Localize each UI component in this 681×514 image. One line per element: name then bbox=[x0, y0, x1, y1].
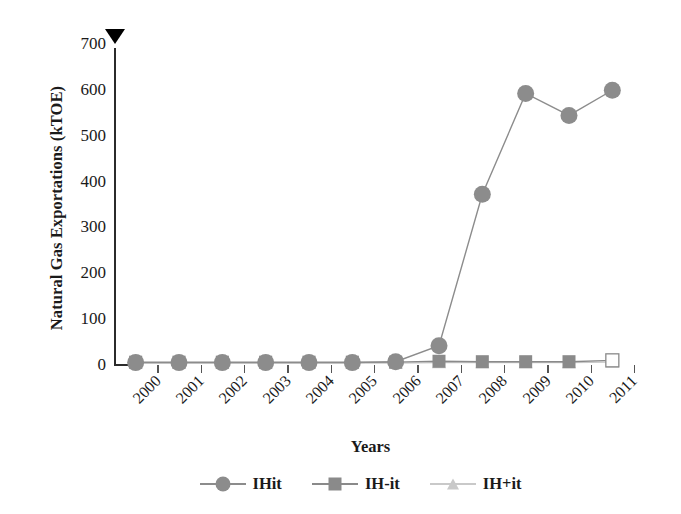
x-axis-tick-label: 2001 bbox=[172, 372, 207, 407]
x-axis-origin-tick bbox=[114, 364, 132, 366]
x-axis-title: Years bbox=[0, 437, 681, 457]
x-axis-tick bbox=[417, 365, 418, 373]
legend-label: IH-it bbox=[365, 474, 400, 494]
chart-container: Natural Gas Exportations (kTOE) 01002003… bbox=[0, 0, 681, 514]
legend-item[interactable]: IH+it bbox=[430, 474, 522, 494]
x-axis-tick bbox=[634, 365, 635, 373]
legend-item[interactable]: IHit bbox=[200, 474, 282, 494]
x-axis-tick bbox=[461, 365, 462, 373]
y-axis-tick-label: 0 bbox=[62, 356, 106, 373]
x-axis-tick bbox=[157, 365, 158, 373]
x-axis-tick bbox=[504, 365, 505, 373]
y-axis-tick-label: 700 bbox=[62, 35, 106, 52]
chart-legend: IHitIH-itIH+it bbox=[0, 474, 681, 494]
y-axis-tick-label: 200 bbox=[62, 264, 106, 281]
legend-label: IH+it bbox=[483, 474, 522, 494]
triangle-down-icon bbox=[105, 29, 125, 44]
x-axis-tick-label: 2004 bbox=[302, 372, 337, 407]
y-axis-tick-label: 100 bbox=[62, 310, 106, 327]
x-axis-tick-label: 2006 bbox=[389, 372, 424, 407]
x-axis-tick bbox=[547, 365, 548, 373]
y-axis-tick-label: 600 bbox=[62, 80, 106, 97]
legend-label: IHit bbox=[253, 474, 282, 494]
y-axis-line bbox=[114, 48, 116, 366]
triangle-marker-icon bbox=[447, 479, 459, 490]
legend-swatch bbox=[200, 476, 246, 492]
x-axis-tick-label: 2011 bbox=[606, 372, 641, 407]
y-axis-tick-label: 500 bbox=[62, 126, 106, 143]
x-axis-tick-label: 2008 bbox=[476, 372, 511, 407]
x-axis-tick bbox=[201, 365, 202, 373]
series-IHit bbox=[127, 82, 621, 371]
x-axis-tick bbox=[244, 365, 245, 373]
x-axis-tick-label: 2007 bbox=[432, 372, 467, 407]
x-axis-tick-label: 2000 bbox=[129, 372, 164, 407]
x-axis-tick-label: 2003 bbox=[259, 372, 294, 407]
legend-swatch bbox=[430, 476, 476, 492]
x-axis-tick bbox=[374, 365, 375, 373]
legend-swatch bbox=[312, 476, 358, 492]
x-axis-tick-label: 2005 bbox=[346, 372, 381, 407]
x-axis-tick bbox=[591, 365, 592, 373]
y-axis-tick-label: 300 bbox=[62, 218, 106, 235]
x-axis-tick-label: 2010 bbox=[562, 372, 597, 407]
x-axis-tick-label: 2002 bbox=[216, 372, 251, 407]
x-axis-tick-label: 2009 bbox=[519, 372, 554, 407]
legend-item[interactable]: IH-it bbox=[312, 474, 400, 494]
circle-marker-icon bbox=[215, 477, 230, 492]
square-marker-icon bbox=[328, 478, 341, 491]
x-axis-tick bbox=[331, 365, 332, 373]
y-axis-tick-label: 400 bbox=[62, 172, 106, 189]
x-axis-tick bbox=[287, 365, 288, 373]
